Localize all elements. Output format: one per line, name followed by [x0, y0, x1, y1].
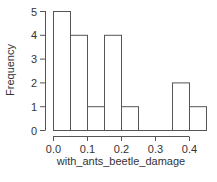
x-tick-label: 0.4: [182, 143, 197, 155]
y-tick-label: 3: [31, 53, 37, 65]
histogram-bar: [71, 35, 88, 130]
histogram-bar: [190, 107, 207, 131]
y-tick-label: 0: [31, 125, 37, 137]
y-ticks: 012345: [31, 6, 46, 137]
x-tick-label: 0.3: [148, 143, 163, 155]
histogram-bar: [88, 107, 105, 131]
y-tick-label: 4: [31, 29, 37, 41]
x-tick-label: 0.2: [114, 143, 129, 155]
y-tick-label: 1: [31, 101, 37, 113]
x-tick-label: 0.1: [80, 143, 95, 155]
y-tick-label: 5: [31, 6, 37, 18]
x-axis-label: with_ants_beetle_damage: [56, 155, 185, 167]
histogram-bars: [53, 12, 207, 131]
y-tick-label: 2: [31, 77, 37, 89]
x-tick-label: 0.0: [46, 143, 61, 155]
histogram-bar: [105, 35, 122, 130]
histogram-bar: [173, 83, 190, 131]
x-ticks: 0.00.10.20.30.4: [46, 137, 197, 156]
histogram-bar: [122, 107, 139, 131]
histogram: 012345 0.00.10.20.30.4 with_ants_beetle_…: [0, 0, 217, 182]
histogram-bar: [54, 12, 71, 131]
y-axis-label: Frequency: [4, 44, 16, 96]
